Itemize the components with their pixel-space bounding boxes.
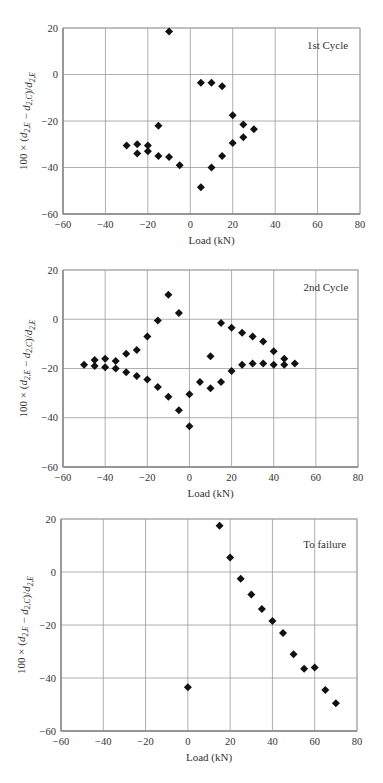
diamond-marker [208,164,216,172]
x-tick-label: −20 [137,736,153,747]
x-tick-label: −60 [53,736,69,747]
diamond-marker [197,79,205,87]
x-tick-label: 0 [185,736,190,747]
y-tick-label: −60 [42,462,58,473]
y-tick-label: 20 [46,514,57,525]
diamond-marker [165,27,173,35]
diamond-marker [247,591,255,599]
diamond-marker [154,316,162,324]
figure-panel: −60−40−20020406080200−20−40−60Load (kN)1… [0,0,383,783]
diamond-marker [226,553,234,561]
x-tick-label: −60 [55,472,71,483]
diamond-marker [217,378,225,386]
diamond-marker [279,629,287,637]
y-tick-label: 20 [48,265,59,276]
diamond-marker [270,347,278,355]
diamond-marker [280,361,288,369]
diamond-marker [112,357,120,365]
diamond-marker [218,82,226,90]
diamond-marker [185,422,193,430]
charts-svg: −60−40−20020406080200−20−40−60Load (kN)1… [0,0,383,783]
diamond-marker [196,378,204,386]
x-tick-label: 60 [311,472,322,483]
diamond-marker [154,152,162,160]
y-tick-label: 20 [48,23,59,34]
series-annotation: 1st Cycle [307,39,348,51]
diamond-marker [239,120,247,128]
x-tick-label: 40 [268,472,279,483]
diamond-marker [101,363,109,371]
diamond-marker [112,365,120,373]
y-tick-label: −40 [42,162,58,173]
y-tick-label: −60 [40,726,56,737]
x-tick-label: −40 [97,472,113,483]
x-tick-label: 0 [187,472,192,483]
x-tick-label: 20 [226,472,237,483]
diamond-marker [268,617,276,625]
x-tick-label: 80 [353,472,364,483]
diamond-marker [122,368,130,376]
diamond-marker [133,140,141,148]
series-annotation: To failure [303,538,346,550]
diamond-marker [259,360,267,368]
x-tick-label: −20 [140,219,156,230]
diamond-marker [237,575,245,583]
diamond-marker [175,309,183,317]
x-tick-label: −40 [97,219,113,230]
y-axis-label: 100 × (d2,E − d2,C)/d2,E [15,576,35,674]
gridlines [61,519,357,731]
diamond-marker [321,686,329,694]
diamond-marker [123,141,131,149]
diamond-marker [143,376,151,384]
y-tick-label: −40 [40,673,56,684]
diamond-marker [133,346,141,354]
diamond-marker [207,352,215,360]
diamond-marker [197,183,205,191]
chart-1: −60−40−20020406080200−20−40−60Load (kN)1… [17,23,365,248]
x-tick-label: 20 [227,219,238,230]
diamond-marker [300,665,308,673]
diamond-marker [291,360,299,368]
gridlines [63,28,360,214]
diamond-marker [133,150,141,158]
x-tick-label: −60 [55,219,71,230]
x-tick-label: 40 [270,219,281,230]
diamond-marker [101,355,109,363]
x-axis-label: Load (kN) [186,751,232,764]
diamond-marker [258,605,266,613]
diamond-marker [259,337,267,345]
diamond-marker [154,383,162,391]
x-tick-label: 80 [352,736,363,747]
x-tick-label: 60 [312,219,323,230]
diamond-marker [144,147,152,155]
diamond-marker [290,650,298,658]
diamond-marker [270,361,278,369]
diamond-marker [175,406,183,414]
diamond-marker [217,319,225,327]
diamond-marker [165,153,173,161]
diamond-marker [184,683,192,691]
diamond-marker [311,663,319,671]
chart-3: −60−40−20020406080200−20−40−60Load (kN)1… [15,514,362,765]
diamond-marker [207,384,215,392]
diamond-marker [249,332,257,340]
diamond-marker [332,699,340,707]
chart-2: −60−40−20020406080200−20−40−60Load (kN)1… [17,265,363,501]
diamond-marker [80,361,88,369]
x-tick-label: 60 [309,736,320,747]
x-axis-label: Load (kN) [187,487,233,500]
diamond-marker [122,350,130,358]
diamond-marker [218,152,226,160]
diamond-marker [176,161,184,169]
x-axis-label: Load (kN) [188,234,234,247]
diamond-marker [164,291,172,299]
y-axis-label: 100 × (d2,E − d2,C)/d2,E [17,72,37,170]
x-tick-label: −40 [95,736,111,747]
y-tick-label: −20 [42,116,58,127]
diamond-marker [185,390,193,398]
diamond-marker [229,139,237,147]
diamond-marker [249,360,257,368]
series-annotation: 2nd Cycle [303,281,348,293]
diamond-marker [239,133,247,141]
y-tick-label: −60 [42,209,58,220]
